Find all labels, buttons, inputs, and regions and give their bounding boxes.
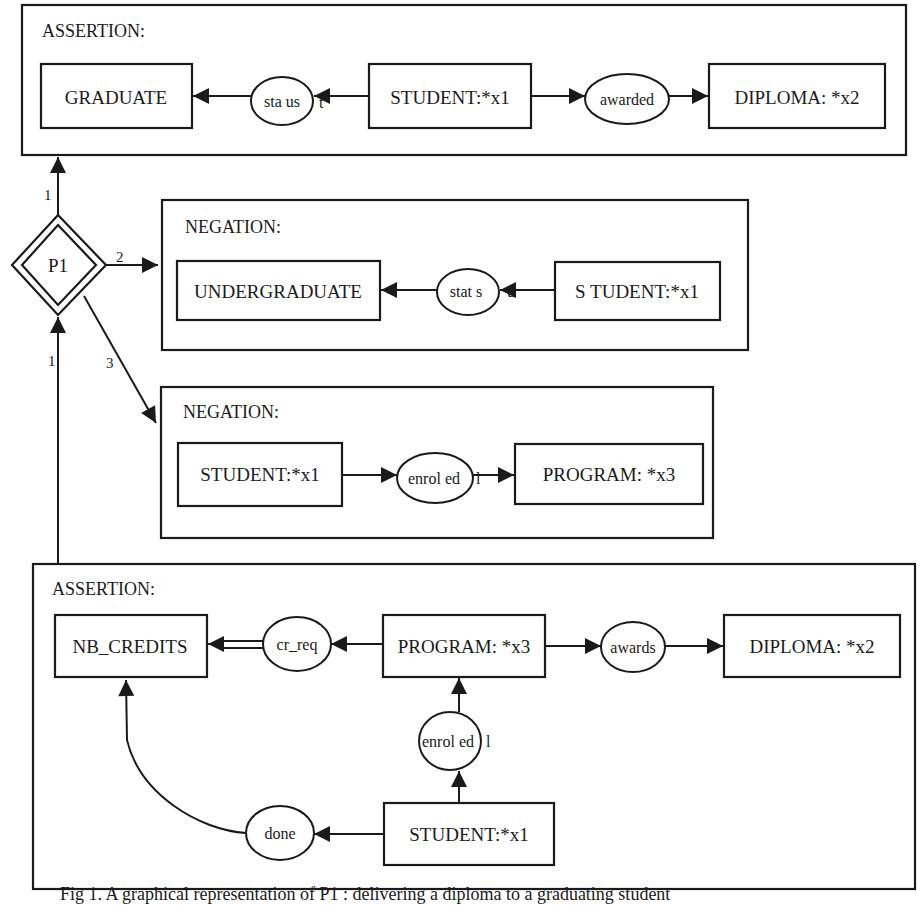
relation-mark: u bbox=[507, 283, 515, 300]
link-number: 2 bbox=[116, 249, 124, 265]
relation-label: sta us bbox=[264, 93, 300, 110]
relation-label: stat s bbox=[450, 283, 482, 300]
relation-label: enrol ed bbox=[408, 470, 460, 487]
concept-label: GRADUATE bbox=[65, 87, 167, 108]
relation-mark: l bbox=[476, 470, 481, 487]
context-title: NEGATION: bbox=[183, 402, 279, 422]
link-number: 1 bbox=[44, 187, 52, 203]
context-negation-1: NEGATION: UNDERGRADUATE stat s u S TUDEN… bbox=[162, 200, 748, 350]
relation-label: awarded bbox=[600, 91, 654, 108]
context-title: ASSERTION: bbox=[52, 579, 155, 599]
context-title: NEGATION: bbox=[185, 217, 281, 237]
concept-label: UNDERGRADUATE bbox=[194, 281, 362, 302]
relation-label: awards bbox=[610, 639, 655, 656]
relation-mark: l bbox=[486, 733, 491, 750]
arc-done-to-nb-credits bbox=[126, 680, 246, 833]
concept-label: DIPLOMA: *x2 bbox=[749, 636, 874, 657]
concept-label: STUDENT:*x1 bbox=[200, 464, 319, 485]
link-number: 1 bbox=[48, 353, 56, 369]
context-negation-2: NEGATION: STUDENT:*x1 enrol ed l PROGRAM… bbox=[161, 387, 713, 538]
concept-label: S TUDENT:*x1 bbox=[575, 281, 699, 302]
relation-label: cr_req bbox=[277, 636, 318, 654]
proposition-label: P1 bbox=[48, 255, 68, 276]
concept-label: PROGRAM: *x3 bbox=[398, 636, 531, 657]
relation-label: done bbox=[264, 825, 295, 842]
concept-label: STUDENT:*x1 bbox=[409, 824, 528, 845]
figure-caption: Fig 1. A graphical representation of P1 … bbox=[60, 884, 917, 905]
context-assertion-top: ASSERTION: GRADUATE sta us t STUDENT:*x1… bbox=[22, 5, 906, 155]
concept-label: NB_CREDITS bbox=[72, 636, 187, 657]
link-3-to-negation-2 bbox=[84, 296, 156, 423]
context-title: ASSERTION: bbox=[42, 21, 145, 41]
concept-label: STUDENT:*x1 bbox=[390, 87, 509, 108]
context-assertion-bottom: ASSERTION: NB_CREDITS cr_req PROGRAM: *x… bbox=[33, 564, 915, 889]
proposition-p1: P1 bbox=[12, 215, 106, 315]
relation-label: enrol ed bbox=[422, 733, 474, 750]
concept-label: DIPLOMA: *x2 bbox=[734, 87, 859, 108]
concept-label: PROGRAM: *x3 bbox=[543, 464, 676, 485]
link-number: 3 bbox=[106, 355, 114, 371]
